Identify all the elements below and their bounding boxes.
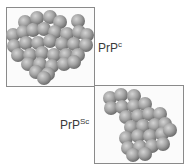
atom-sphere	[163, 123, 177, 137]
atom-sphere	[126, 148, 140, 162]
atom-sphere	[138, 147, 152, 161]
prpc-label: PrPc	[98, 40, 122, 55]
prpsc-label: PrPSc	[60, 117, 89, 132]
atom-sphere	[19, 36, 33, 50]
atom-sphere	[156, 137, 170, 151]
atom-sphere	[37, 71, 51, 85]
atom-sphere	[67, 55, 81, 69]
molecule-diagram	[0, 0, 190, 168]
atom-sphere	[114, 88, 128, 102]
prpc-molecule	[6, 10, 94, 85]
atom-sphere	[43, 34, 57, 48]
prpsc-molecule	[103, 88, 177, 162]
